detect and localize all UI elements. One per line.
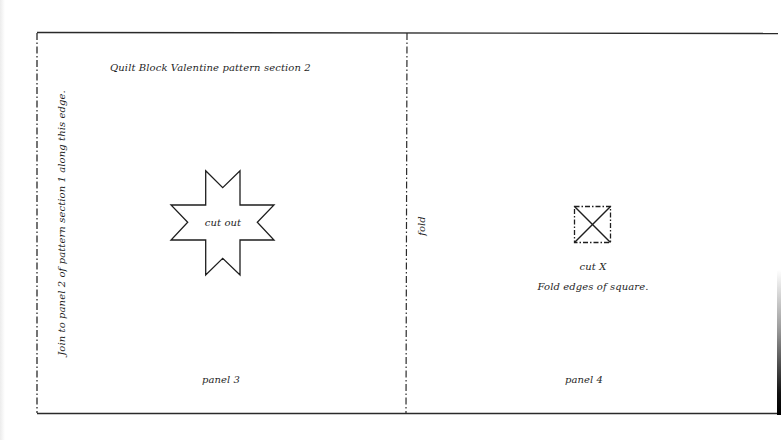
outer-border (37, 33, 778, 414)
page-binding-shadow (777, 270, 781, 415)
pattern-sheet: Quilt Block Valentine pattern section 2 … (0, 0, 781, 440)
fold-edges-instruction: Fold edges of square. (538, 281, 649, 292)
star-cutout-label: cut out (205, 217, 241, 228)
fold-label: fold (416, 216, 427, 236)
cut-x-label: cut X (580, 261, 607, 272)
square-x-shape (575, 207, 611, 243)
join-instruction: Join to panel 2 of pattern section 1 alo… (56, 90, 67, 356)
panel-4-label: panel 4 (565, 374, 603, 385)
pattern-title: Quilt Block Valentine pattern section 2 (110, 62, 311, 73)
fold-line (406, 33, 407, 413)
panel-3-label: panel 3 (202, 374, 240, 385)
